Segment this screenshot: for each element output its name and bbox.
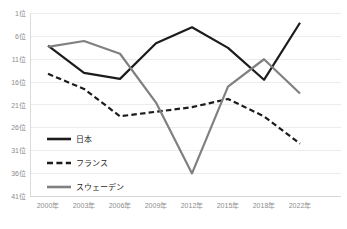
rank-trend-chart: 1位6位11位16位21位26位31位36位41位 2000年2003年2006…: [0, 0, 347, 229]
x-tick-label: 2012年: [181, 201, 204, 210]
y-tick-label: 36位: [11, 169, 26, 177]
x-tick-label: 2006年: [109, 201, 132, 210]
y-tick-label: 11位: [12, 55, 26, 63]
y-axis-tick-labels: 1位6位11位16位21位26位31位36位41位: [11, 9, 26, 200]
y-tick-label: 41位: [11, 192, 26, 200]
x-axis-tick-labels: 2000年2003年2006年2009年2012年2015年2018年2022年: [37, 201, 312, 210]
y-tick-label: 6位: [15, 32, 26, 40]
series-line-フランス: [48, 74, 300, 144]
x-tick-label: 2003年: [73, 201, 96, 210]
y-tick-label: 21位: [11, 101, 26, 109]
legend-label-日本: 日本: [76, 134, 92, 144]
y-tick-label: 1位: [15, 9, 26, 17]
series-line-スウェーデン: [48, 41, 300, 173]
y-tick-label: 16位: [11, 78, 26, 86]
legend-label-スウェーデン: スウェーデン: [76, 182, 124, 192]
chart-legend: 日本フランススウェーデン: [47, 134, 124, 192]
y-tick-label: 31位: [11, 146, 26, 154]
legend-label-フランス: フランス: [76, 159, 108, 168]
x-tick-label: 2000年: [37, 201, 60, 210]
series-line-日本: [48, 23, 300, 80]
x-tick-label: 2018年: [253, 201, 276, 210]
x-tick-label: 2015年: [217, 201, 240, 210]
x-tick-label: 2022年: [289, 201, 312, 210]
y-tick-label: 26位: [11, 123, 26, 131]
chart-canvas: 1位6位11位16位21位26位31位36位41位 2000年2003年2006…: [0, 0, 347, 229]
x-tick-label: 2009年: [145, 201, 168, 210]
gridlines: [30, 14, 341, 197]
